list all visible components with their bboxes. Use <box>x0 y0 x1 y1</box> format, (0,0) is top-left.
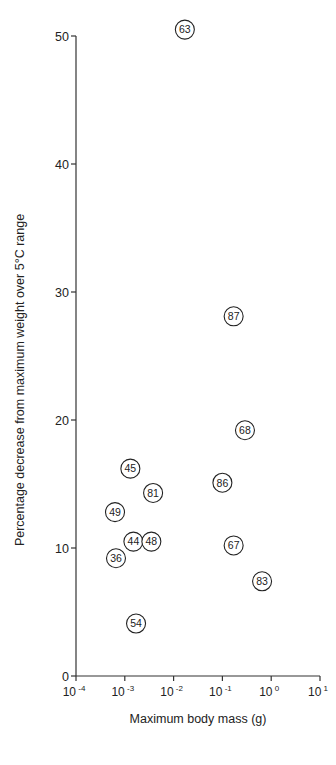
x-axis-label: Maximum body mass (g) <box>130 712 267 726</box>
x-tick-label: 10 0 <box>259 684 280 699</box>
point-label: 36 <box>110 552 122 564</box>
axes: 0102030405010 -410 -310 -210 -110 010 1 <box>55 30 328 700</box>
y-tick-label: 0 <box>62 670 69 684</box>
data-point: 44 <box>124 532 143 551</box>
data-point: 48 <box>142 532 161 551</box>
data-points: 63876845868149444867368354 <box>106 20 272 633</box>
point-label: 63 <box>179 23 191 35</box>
point-label: 54 <box>130 617 142 629</box>
data-point: 87 <box>224 307 243 326</box>
point-label: 67 <box>228 539 240 551</box>
point-label: 83 <box>256 575 268 587</box>
x-tick-label: 10 -2 <box>160 684 183 699</box>
point-label: 44 <box>128 535 140 547</box>
y-tick-label: 10 <box>55 542 69 556</box>
y-tick-label: 40 <box>55 158 69 172</box>
point-label: 87 <box>228 310 240 322</box>
scatter-chart: 0102030405010 -410 -310 -210 -110 010 1 … <box>0 0 336 765</box>
y-axis-label: Percentage decrease from maximum weight … <box>13 214 27 546</box>
data-point: 83 <box>253 572 272 591</box>
data-point: 54 <box>127 614 146 633</box>
data-point: 68 <box>235 421 254 440</box>
y-tick-label: 30 <box>55 286 69 300</box>
y-tick-label: 20 <box>55 414 69 428</box>
point-label: 68 <box>239 424 251 436</box>
point-label: 48 <box>146 535 158 547</box>
point-label: 45 <box>125 462 137 474</box>
point-label: 86 <box>217 477 229 489</box>
point-label: 49 <box>109 506 121 518</box>
data-point: 67 <box>224 536 243 555</box>
x-tick-label: 10 1 <box>308 684 329 699</box>
x-tick-label: 10 -1 <box>209 684 232 699</box>
data-point: 45 <box>121 459 140 478</box>
data-point: 36 <box>106 549 125 568</box>
data-point: 49 <box>106 503 125 522</box>
x-tick-label: 10 -4 <box>63 684 86 699</box>
data-point: 86 <box>213 473 232 492</box>
x-tick-label: 10 -3 <box>111 684 134 699</box>
point-label: 81 <box>147 487 159 499</box>
data-point: 81 <box>144 483 163 502</box>
data-point: 63 <box>175 20 194 39</box>
y-tick-label: 50 <box>55 30 69 44</box>
